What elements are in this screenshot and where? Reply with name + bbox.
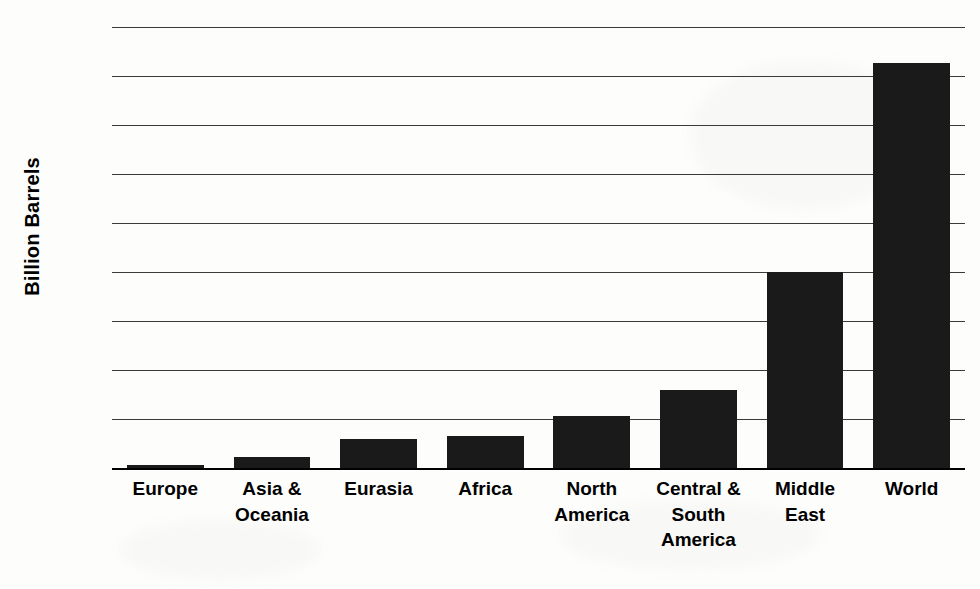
bar[interactable] [127, 465, 204, 468]
bar[interactable] [234, 457, 311, 468]
bar-chart: Billion Barrels 180016001400120010008006… [0, 0, 980, 589]
x-axis-label: World [858, 476, 965, 502]
bars [112, 27, 965, 468]
bar[interactable] [873, 63, 950, 468]
bar[interactable] [340, 439, 417, 468]
x-axis-label: North America [539, 476, 646, 527]
x-axis-label: Central & South America [645, 476, 752, 553]
bar[interactable] [767, 272, 844, 468]
x-axis-label: Europe [112, 476, 219, 502]
x-axis-label: Middle East [752, 476, 859, 527]
bar[interactable] [660, 390, 737, 468]
x-axis-label: Africa [432, 476, 539, 502]
bar[interactable] [447, 436, 524, 468]
bar[interactable] [553, 416, 630, 468]
x-axis-label: Eurasia [325, 476, 432, 502]
y-axis-title: Billion Barrels [21, 77, 44, 377]
gridline-0 [112, 468, 965, 470]
x-axis-label: Asia & Oceania [219, 476, 326, 527]
plot-area: 180016001400120010008006004002000 [112, 27, 965, 468]
x-axis-category-labels: EuropeAsia & OceaniaEurasiaAfricaNorth A… [112, 476, 965, 586]
